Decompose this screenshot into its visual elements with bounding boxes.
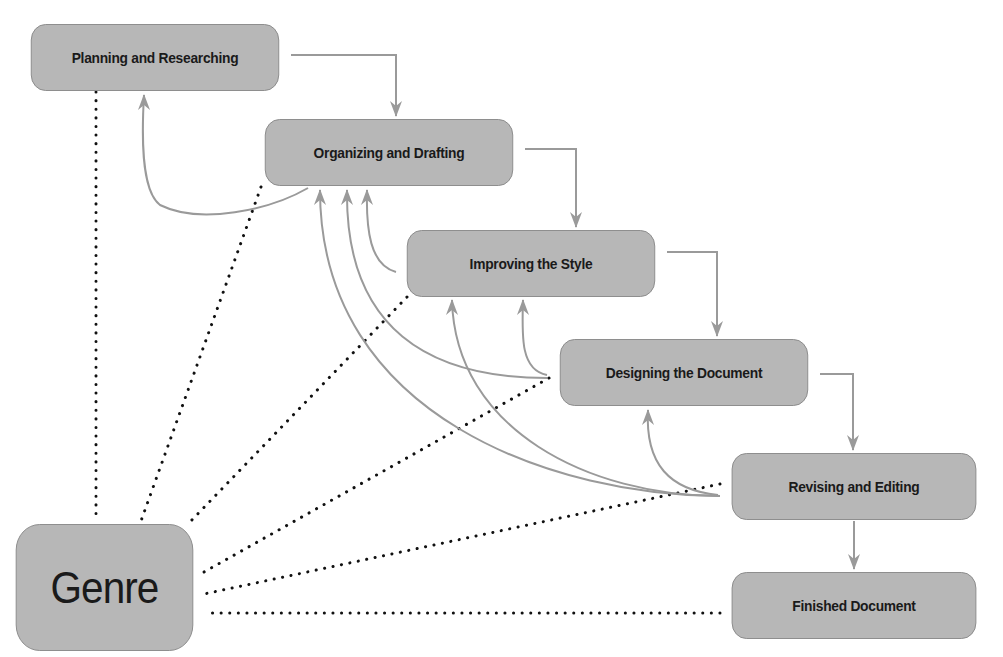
feedback-designing-to-improving (523, 300, 547, 375)
node-organizing-and-drafting: Organizing and Drafting (265, 119, 513, 186)
arrow-designing-to-revising (820, 374, 853, 450)
node-finished-document: Finished Document (732, 572, 977, 639)
dotted-link-designing (204, 378, 549, 572)
dotted-link-improving (188, 297, 407, 524)
node-genre: Genre (16, 524, 194, 651)
node-designing-the-document: Designing the Document (560, 339, 808, 406)
arrow-planning-to-organizing (291, 55, 396, 116)
node-planning-and-researching: Planning and Researching (31, 24, 279, 91)
writing-process-diagram: Planning and Researching Organizing and … (0, 0, 1003, 657)
dotted-link-organizing (141, 187, 261, 521)
arrow-organizing-to-improving (525, 149, 576, 227)
node-improving-the-style: Improving the Style (407, 230, 655, 297)
feedback-improving-to-organizing (367, 190, 396, 272)
dotted-link-revising (204, 484, 720, 594)
node-revising-and-editing: Revising and Editing (732, 453, 977, 520)
arrow-improving-to-designing (667, 252, 717, 336)
feedback-revising-to-designing (648, 410, 718, 495)
